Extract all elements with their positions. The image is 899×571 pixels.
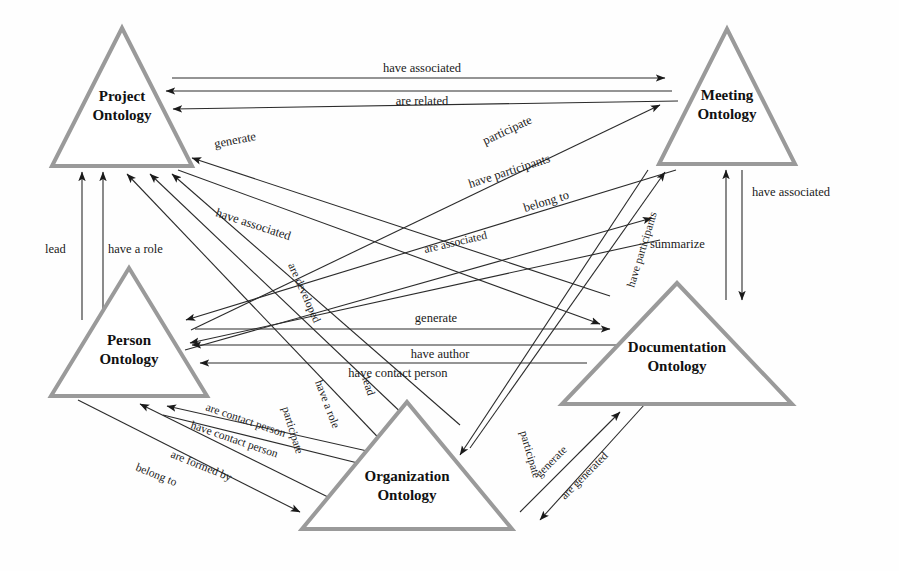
- node-project-label-line2: Ontology: [92, 107, 152, 123]
- node-organization-label-line1: Organization: [365, 468, 451, 484]
- edge-person-meeting-belong-to: [185, 218, 652, 350]
- edge-label-organization-project-have-a-role: have a role: [313, 378, 342, 429]
- edge-label-documentation-person-have-author: have author: [411, 347, 470, 361]
- node-project-label-line1: Project: [99, 88, 145, 104]
- node-person-ontology[interactable]: Person Ontology: [51, 268, 207, 396]
- edge-organization-project-have-a-role: [127, 174, 392, 452]
- edge-person-meeting-participate: [191, 105, 660, 330]
- edge-label-meeting-project-are-related: are related: [396, 94, 449, 108]
- edge-organization-meeting-have-participants: [470, 172, 665, 448]
- edge-label-documentation-organization-are-generated: are generated: [558, 449, 611, 502]
- node-documentation-ontology[interactable]: Documentation Ontology: [562, 283, 792, 404]
- edge-label-documentation-project-have-associated: have associated: [214, 206, 293, 244]
- edge-label-meeting-documentation-have-associated: have associated: [752, 185, 831, 199]
- node-organization-label-line2: Ontology: [377, 487, 437, 503]
- edge-project-documentation-are-developed: [178, 170, 600, 324]
- node-meeting-label-line2: Ontology: [697, 106, 757, 122]
- edge-label-person-organization-belong-to: belong to: [134, 461, 179, 489]
- edge-label-person-meeting-belong-to: belong to: [522, 188, 571, 215]
- edge-label-person-project-lead: lead: [45, 242, 67, 256]
- edge-meeting-person-are-associated: [190, 240, 660, 343]
- node-documentation-label-line1: Documentation: [628, 339, 727, 355]
- edge-label-person-documentation-generate: generate: [415, 311, 458, 325]
- edge-label-organization-person-are-formed-by: are formed by: [169, 448, 234, 484]
- edge-label-meeting-person-have-participants: have participants: [467, 151, 552, 191]
- ontology-diagram-canvas: Project Ontology Meeting Ontology Person…: [0, 0, 899, 571]
- node-documentation-label-line2: Ontology: [647, 358, 707, 374]
- node-project-ontology[interactable]: Project Ontology: [52, 28, 192, 166]
- ontology-diagram-svg: Project Ontology Meeting Ontology Person…: [0, 0, 899, 571]
- node-person-label-line1: Person: [107, 332, 152, 348]
- node-meeting-ontology[interactable]: Meeting Ontology: [659, 29, 795, 164]
- node-person-label-line2: Ontology: [99, 351, 159, 367]
- node-meeting-label-line1: Meeting: [701, 87, 754, 103]
- edge-label-person-project-have-a-role: have a role: [108, 242, 163, 256]
- edge-label-meeting-project-generate: generate: [213, 129, 258, 151]
- edge-label-project-meeting-have-associated: have associated: [383, 61, 462, 75]
- edge-label-project-documentation-are-developed: are developed: [285, 261, 323, 325]
- edge-organization-project-lead: [150, 174, 430, 440]
- edge-label-documentation-meeting-summarize: summarize: [650, 237, 705, 251]
- edge-label-meeting-person-are-associated: are associated: [423, 229, 488, 255]
- edge-label-person-meeting-participate: participate: [480, 113, 534, 148]
